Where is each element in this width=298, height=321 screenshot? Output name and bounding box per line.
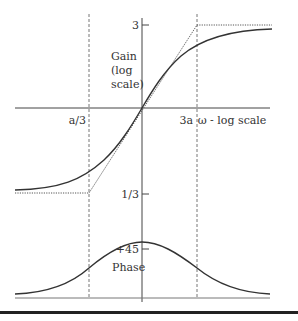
- gain-asymptote: [15, 25, 272, 193]
- tick-label-45: +45: [116, 243, 139, 256]
- bottom-rule: [0, 311, 298, 314]
- gain-label-line-3: scale): [111, 78, 144, 91]
- x-axis-label: ω - log scale: [198, 114, 267, 127]
- gain-label-line-1: Gain: [111, 50, 137, 63]
- gain-curve: [15, 29, 272, 190]
- phase-label: Phase: [112, 261, 145, 274]
- bode-diagram: 3 1/3 +45 Gain (log scale) a/3 3a ω - lo…: [0, 0, 298, 321]
- tick-label-1-3: 1/3: [121, 188, 139, 201]
- tick-label-3: 3: [132, 19, 139, 32]
- x-tick-label-3a: 3a: [179, 114, 193, 127]
- x-tick-label-a-over-3: a/3: [69, 114, 86, 127]
- gain-label-line-2: (log: [111, 64, 132, 77]
